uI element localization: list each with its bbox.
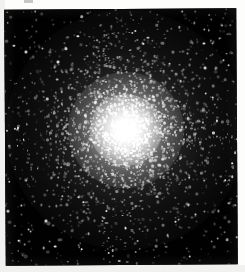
- star-point: [157, 213, 158, 214]
- star-point: [18, 96, 20, 98]
- star-point: [224, 12, 227, 15]
- star-point: [36, 31, 37, 32]
- star-point: [70, 104, 73, 107]
- star-point: [63, 190, 65, 192]
- star-point: [83, 185, 85, 187]
- star-point: [134, 251, 136, 253]
- star-point: [93, 27, 94, 28]
- star-point: [30, 163, 33, 166]
- star-point: [202, 192, 203, 193]
- star-point: [21, 142, 23, 144]
- star-point: [169, 78, 171, 80]
- star-point: [65, 169, 66, 170]
- star-point: [35, 50, 37, 52]
- star-point: [179, 100, 181, 102]
- star-point: [206, 105, 208, 107]
- star-point: [185, 18, 187, 20]
- star-point: [116, 108, 117, 109]
- star-point: [212, 54, 214, 56]
- star-point: [129, 177, 132, 180]
- star-point: [63, 156, 64, 157]
- star-point: [34, 144, 35, 145]
- star-point: [46, 133, 48, 135]
- star-point: [112, 58, 114, 60]
- star-point: [85, 77, 86, 78]
- star-point: [143, 126, 145, 128]
- star-point: [74, 164, 76, 166]
- star-point: [119, 59, 121, 61]
- star-point: [47, 189, 49, 191]
- star-point: [25, 51, 27, 53]
- star-point: [211, 43, 213, 45]
- star-point: [178, 183, 180, 185]
- star-point: [6, 259, 7, 260]
- star-point: [175, 163, 177, 165]
- star-point: [183, 113, 185, 115]
- star-point: [167, 171, 169, 173]
- star-point: [6, 130, 8, 132]
- star-point: [143, 95, 146, 98]
- star-point: [190, 162, 192, 164]
- star-point: [203, 28, 205, 30]
- star-point: [226, 239, 229, 242]
- star-point: [134, 208, 135, 209]
- star-point: [55, 134, 57, 136]
- star-point: [219, 30, 221, 32]
- star-point: [14, 36, 16, 38]
- star-point: [88, 159, 90, 161]
- star-point: [65, 130, 67, 132]
- star-point: [226, 8, 228, 10]
- star-point: [215, 182, 217, 184]
- star-point: [45, 57, 47, 59]
- star-point: [8, 220, 11, 223]
- star-point: [53, 113, 55, 115]
- star-point: [106, 133, 109, 136]
- star-point: [140, 78, 142, 80]
- star-point: [163, 150, 165, 152]
- star-point: [113, 216, 114, 217]
- star-point: [74, 98, 76, 100]
- star-point: [165, 117, 166, 118]
- star-point: [184, 76, 187, 79]
- star-point: [19, 115, 21, 117]
- star-point: [210, 40, 211, 41]
- star-point: [174, 119, 175, 120]
- star-point: [88, 145, 90, 147]
- star-point: [173, 89, 175, 91]
- star-point: [224, 78, 227, 81]
- star-point: [53, 193, 55, 195]
- star-point: [64, 116, 65, 117]
- star-point: [7, 210, 9, 212]
- star-point: [198, 138, 200, 140]
- star-point: [227, 90, 228, 91]
- star-point: [178, 64, 180, 66]
- star-point: [39, 108, 40, 109]
- star-point: [134, 242, 137, 245]
- star-point: [82, 162, 83, 163]
- star-point: [34, 82, 36, 84]
- star-point: [90, 183, 91, 184]
- star-point: [212, 98, 214, 100]
- star-point: [120, 210, 123, 213]
- star-point: [105, 55, 106, 56]
- star-point: [74, 133, 76, 135]
- star-point: [47, 163, 48, 164]
- star-point: [187, 204, 189, 206]
- star-point: [36, 152, 38, 154]
- star-point: [71, 151, 73, 153]
- star-point: [184, 155, 186, 157]
- star-point: [60, 148, 62, 150]
- star-point: [195, 121, 198, 124]
- star-point: [226, 250, 228, 252]
- star-point: [14, 93, 16, 95]
- star-point: [140, 92, 142, 94]
- star-point: [56, 78, 58, 80]
- star-point: [144, 90, 146, 92]
- star-point: [153, 81, 155, 83]
- star-point: [107, 222, 109, 224]
- star-point: [163, 104, 166, 107]
- star-point: [162, 71, 164, 73]
- star-point: [164, 87, 166, 89]
- star-point: [101, 223, 103, 225]
- star-point: [155, 167, 156, 168]
